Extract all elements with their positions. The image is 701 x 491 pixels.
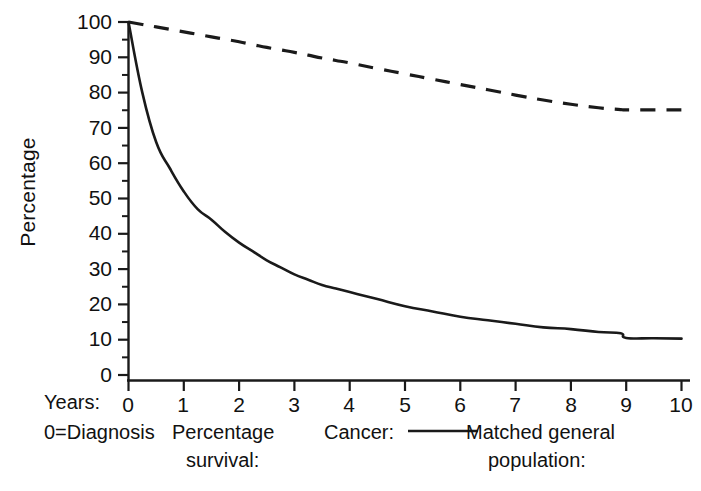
percentage-survival-label-line2: survival: <box>186 449 259 472</box>
legend-matched-population-label-line1: Matched general <box>466 421 615 444</box>
y-tick-label-30: 30 <box>50 257 112 281</box>
x-tick-label-9: 9 <box>606 393 646 417</box>
y-tick-label-50: 50 <box>50 186 112 210</box>
series-line-matched-general-population <box>129 22 682 110</box>
y-axis-title: Percentage <box>16 112 40 272</box>
series-line-cancer <box>129 22 682 339</box>
chart-plot-area <box>0 0 701 491</box>
y-tick-label-0: 0 <box>50 363 112 387</box>
y-tick-label-70: 70 <box>50 116 112 140</box>
x-tick-label-10: 10 <box>661 393 701 417</box>
survival-chart-figure: Percentage 100 90 80 70 60 50 40 30 20 1… <box>0 0 701 491</box>
x-tick-label-2: 2 <box>219 393 259 417</box>
years-caption-label: Years: <box>44 391 100 414</box>
y-tick-label-100: 100 <box>50 10 112 34</box>
y-tick-label-10: 10 <box>50 327 112 351</box>
y-tick-label-60: 60 <box>50 151 112 175</box>
y-tick-label-90: 90 <box>50 45 112 69</box>
x-tick-label-1: 1 <box>163 393 203 417</box>
x-ticks <box>129 381 682 391</box>
y-tick-label-40: 40 <box>50 221 112 245</box>
x-tick-label-8: 8 <box>551 393 591 417</box>
x-tick-label-0: 0 <box>108 393 148 417</box>
legend-cancer-label: Cancer: <box>324 421 394 444</box>
y-tick-label-20: 20 <box>50 292 112 316</box>
x-tick-label-3: 3 <box>274 393 314 417</box>
percentage-survival-label-line1: Percentage <box>172 421 274 444</box>
legend-matched-population-label-line2: population: <box>488 449 586 472</box>
x-tick-label-7: 7 <box>495 393 535 417</box>
diagnosis-caption-label: 0=Diagnosis <box>44 421 155 444</box>
x-tick-label-5: 5 <box>385 393 425 417</box>
x-tick-label-6: 6 <box>440 393 480 417</box>
x-tick-label-4: 4 <box>329 393 369 417</box>
y-tick-label-80: 80 <box>50 80 112 104</box>
